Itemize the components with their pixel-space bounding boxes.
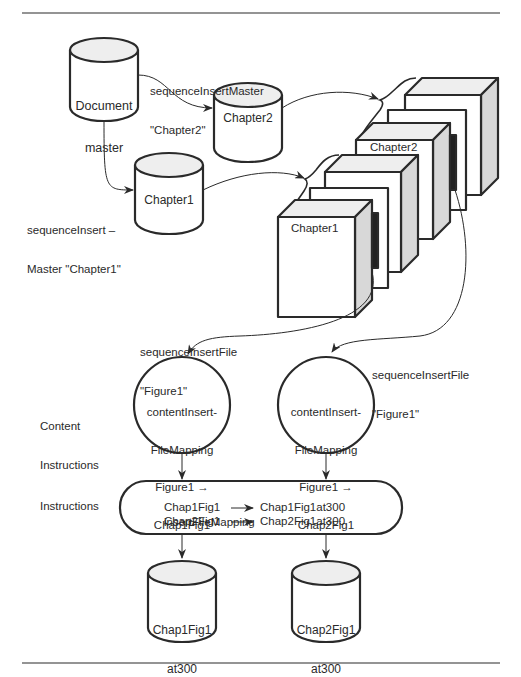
document-master-line1: Document bbox=[70, 99, 138, 113]
output-line2: at300 bbox=[292, 663, 360, 676]
edge-chapter2-to-stack bbox=[282, 92, 378, 108]
edge-label-line1: sequenceInsertMaster bbox=[150, 85, 264, 98]
text-line2: FileMapping bbox=[136, 444, 228, 457]
mapping-row-2-from: Chap2Fig1 bbox=[164, 515, 220, 528]
document-master-label: Document master bbox=[70, 71, 138, 169]
edge-label-line2: Master "Chapter1" bbox=[27, 263, 121, 276]
mapping-row-2-to: Chap2Fig1at300 bbox=[260, 515, 345, 528]
edge-label-line2: "Chapter2" bbox=[150, 124, 264, 137]
text-line3: Figure1 → bbox=[280, 481, 372, 494]
output-line1: Chap2Fig1 bbox=[292, 624, 360, 637]
output1-label: Chap1Fig1 at300 bbox=[148, 598, 216, 677]
edge-label-line1: sequenceInsertFile bbox=[140, 346, 237, 359]
edge-label-seq-file-2: sequenceInsertFile "Figure1" bbox=[372, 343, 469, 434]
edge-label-line1: sequenceInsertFile bbox=[372, 369, 469, 382]
text-line2: FileMapping bbox=[280, 444, 372, 457]
mapping-row-1-from: Chap1Fig1 bbox=[164, 501, 220, 514]
edge-label-line1: sequenceInsert – bbox=[27, 224, 121, 237]
output2-label: Chap2Fig1 at300 bbox=[292, 598, 360, 677]
book-chapter1-label: Chapter1 bbox=[291, 222, 338, 235]
output-line2: at300 bbox=[148, 663, 216, 676]
document-master-line2: master bbox=[70, 141, 138, 155]
chapter1-book-stack bbox=[278, 155, 418, 317]
book-chapter2-label: Chapter2 bbox=[370, 141, 417, 154]
row-label-instructions: Instructions bbox=[40, 500, 99, 513]
edge-label-seq-master-ch1: sequenceInsert – Master "Chapter1" bbox=[27, 198, 121, 289]
row-label-content-instructions: Content Instructions bbox=[40, 394, 99, 485]
chapter1-cylinder-label: Chapter1 bbox=[135, 194, 203, 207]
text-line1: contentInsert- bbox=[136, 406, 228, 419]
output-line1: Chap1Fig1 bbox=[148, 624, 216, 637]
text-line1: contentInsert- bbox=[280, 406, 372, 419]
mapping-row-1-to: Chap1Fig1at300 bbox=[260, 501, 345, 514]
edge-chapter1-to-stack bbox=[203, 173, 304, 190]
edge-label-seq-master-ch2: sequenceInsertMaster "Chapter2" bbox=[150, 59, 264, 150]
edge-label-line2: "Figure1" bbox=[372, 408, 469, 421]
row-label-line1: Content bbox=[40, 420, 99, 433]
row-label-line2: Instructions bbox=[40, 459, 99, 472]
